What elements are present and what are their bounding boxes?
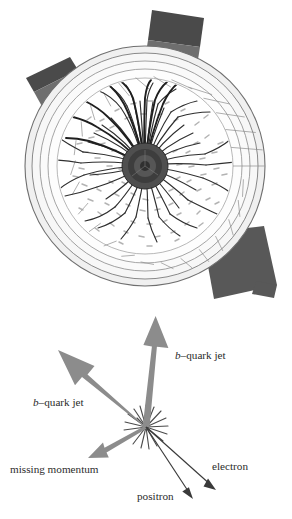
event-display-figure: b–quark jet b–quark jet missing momentum…	[0, 0, 292, 519]
label-b-quark-jet-left: b–quark jet	[33, 396, 85, 408]
figure-canvas: b–quark jet b–quark jet missing momentum…	[0, 0, 292, 519]
label-b-quark-jet-right: b–quark jet	[175, 349, 227, 361]
label-b-quark-jet-right-text: –quark jet	[180, 349, 227, 361]
label-electron: electron	[212, 460, 248, 472]
label-b-quark-jet-left-text: –quark jet	[38, 396, 85, 408]
label-missing-momentum: missing momentum	[10, 463, 99, 475]
label-positron: positron	[137, 490, 174, 502]
beam-pipe-core	[122, 143, 168, 189]
